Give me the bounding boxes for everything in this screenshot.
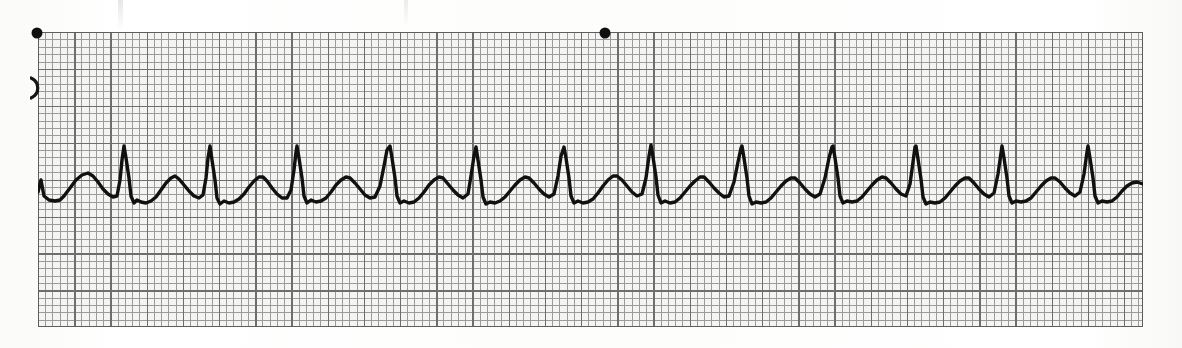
edge-calibration-glyph bbox=[30, 76, 44, 100]
scan-artifact bbox=[118, 0, 123, 30]
interval-marker-dot-2 bbox=[600, 28, 611, 39]
scan-artifact bbox=[404, 0, 408, 26]
ecg-grid-paper bbox=[38, 32, 1143, 327]
interval-marker-dot-1 bbox=[32, 28, 43, 39]
ecg-page bbox=[0, 0, 1182, 348]
